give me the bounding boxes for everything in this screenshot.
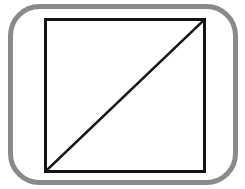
geometric-figure-svg (0, 0, 245, 189)
figure-canvas: A gray rounded-rectangle frame enclosing… (0, 0, 245, 189)
canvas-background (0, 0, 245, 189)
